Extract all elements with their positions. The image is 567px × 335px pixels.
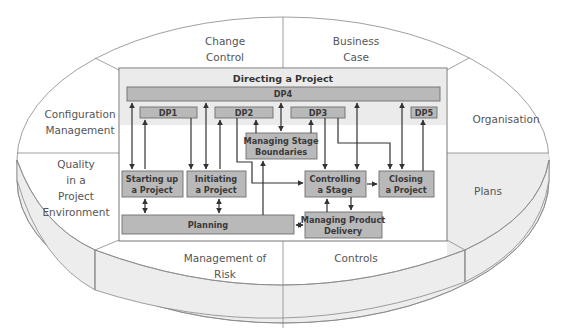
svg-text:Closing: Closing <box>389 174 423 184</box>
svg-text:Starting up: Starting up <box>126 174 178 184</box>
svg-text:DP3: DP3 <box>309 108 328 118</box>
svg-text:Controls: Controls <box>334 252 377 264</box>
svg-text:Management of: Management of <box>184 252 267 264</box>
directing-title: Directing a Project <box>233 73 334 84</box>
svg-text:Initiating: Initiating <box>195 174 237 184</box>
svg-text:Configuration: Configuration <box>44 108 115 120</box>
svg-text:Case: Case <box>343 51 369 63</box>
initiating-box: Initiating a Project <box>187 171 246 197</box>
process-model-diagram: Change Control Business Case Organisatio… <box>0 0 567 335</box>
svg-text:a Project: a Project <box>195 185 236 195</box>
starting-up-box: Starting up a Project <box>122 171 183 197</box>
svg-text:Project: Project <box>58 190 94 202</box>
dp5-box: DP5 <box>411 107 437 118</box>
svg-text:DP2: DP2 <box>235 108 254 118</box>
svg-text:in a: in a <box>66 174 85 186</box>
svg-text:Control: Control <box>206 51 244 63</box>
svg-text:Managing Stage: Managing Stage <box>244 136 319 146</box>
svg-text:Change: Change <box>205 35 245 47</box>
managing-stage-boundaries-box: Managing Stage Boundaries <box>244 133 319 159</box>
svg-text:DP5: DP5 <box>415 108 434 118</box>
dp3-box: DP3 <box>291 107 345 118</box>
closing-box: Closing a Project <box>379 171 434 197</box>
svg-text:Plans: Plans <box>474 185 502 197</box>
svg-text:a Stage: a Stage <box>317 185 353 195</box>
svg-text:Controlling: Controlling <box>309 174 360 184</box>
planning-box: Planning <box>122 215 294 234</box>
svg-text:Boundaries: Boundaries <box>255 147 307 157</box>
segment-plans: Plans <box>474 185 502 197</box>
svg-text:Organisation: Organisation <box>472 113 539 125</box>
svg-text:Planning: Planning <box>188 220 229 230</box>
svg-text:Business: Business <box>333 35 379 47</box>
dp4-box: DP4 <box>127 87 440 101</box>
svg-text:a Project: a Project <box>385 185 426 195</box>
svg-text:a Project: a Project <box>131 185 172 195</box>
segment-controls: Controls <box>334 252 377 264</box>
svg-text:DP4: DP4 <box>274 89 293 99</box>
svg-text:Environment: Environment <box>42 206 109 218</box>
segment-organisation: Organisation <box>472 113 539 125</box>
svg-text:Quality: Quality <box>57 158 95 170</box>
dp2-box: DP2 <box>215 107 273 118</box>
svg-text:DP1: DP1 <box>159 108 178 118</box>
svg-text:Managing Product: Managing Product <box>301 215 385 225</box>
controlling-box: Controlling a Stage <box>305 171 366 197</box>
managing-product-delivery-box: Managing Product Delivery <box>301 212 385 238</box>
svg-text:Risk: Risk <box>214 268 237 280</box>
dp1-box: DP1 <box>140 107 197 118</box>
svg-text:Delivery: Delivery <box>324 226 363 236</box>
svg-text:Management: Management <box>45 124 114 136</box>
